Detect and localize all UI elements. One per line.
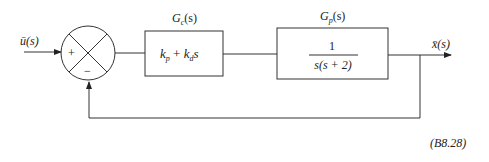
equation-number: (B8.28): [430, 136, 466, 150]
plant-name: Gp(s): [320, 9, 345, 25]
controller-block: Gc(s) kp + kds: [145, 11, 223, 76]
minus-sign: −: [84, 64, 91, 78]
controller-name: Gc(s): [172, 11, 197, 27]
plant-denominator: s(s + 2): [314, 58, 351, 72]
plus-sign: +: [68, 46, 75, 60]
block-diagram: ū(s) + − Gc(s) kp + kds Gp(s) 1 s(s + 2)…: [0, 0, 489, 162]
output-label: x̄(s): [431, 37, 450, 51]
feedback-path: [89, 55, 420, 118]
controller-expression: kp + kds: [160, 46, 198, 63]
input-label: ū(s): [20, 34, 39, 48]
summing-junction: + −: [61, 26, 115, 80]
plant-numerator: 1: [329, 39, 335, 53]
plant-block: Gp(s) 1 s(s + 2): [277, 9, 388, 79]
